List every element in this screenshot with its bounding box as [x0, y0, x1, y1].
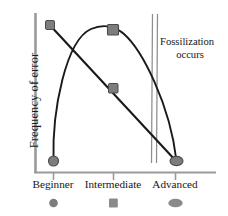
legend-marker-beginner [49, 199, 58, 208]
chart-figure: Frequency of error Beginner Intermediate… [0, 0, 228, 216]
x-tick-label-intermediate: Intermediate [73, 178, 153, 190]
marker-intermediate-peak [108, 25, 119, 36]
fossilization-annotation-line1: Fossilization [160, 36, 228, 49]
y-axis-label: Frequency of error [27, 21, 42, 181]
marker-beginner-high [46, 21, 55, 30]
fossilization-annotation-line2: occurs [160, 49, 228, 62]
x-tick-label-advanced: Advanced [142, 178, 208, 190]
legend-marker-advanced [168, 199, 182, 208]
fossilization-line-left [152, 14, 153, 163]
marker-beginner-low [49, 156, 59, 166]
marker-advanced-low [170, 156, 183, 165]
legend-marker-intermediate [109, 199, 118, 208]
marker-intermediate-mid [109, 84, 119, 94]
fossilization-annotation: Fossilization occurs [160, 36, 228, 61]
